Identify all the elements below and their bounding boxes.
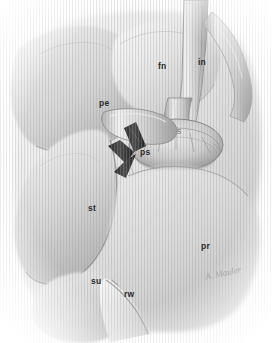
label-fn: fn bbox=[158, 62, 166, 71]
label-ps: ps bbox=[140, 148, 150, 157]
illustration-canvas bbox=[0, 0, 272, 343]
illustration-artwork bbox=[0, 0, 272, 343]
label-s: s bbox=[177, 127, 181, 136]
label-in: in bbox=[198, 58, 206, 67]
label-pr: pr bbox=[201, 242, 210, 251]
anatomical-illustration-figure: fn in pe s ps st pr su rw A. Mauler bbox=[0, 0, 272, 343]
label-st: st bbox=[88, 204, 96, 213]
page-vignette bbox=[0, 0, 272, 343]
label-su: su bbox=[91, 277, 101, 286]
label-rw: rw bbox=[124, 290, 134, 299]
label-pe: pe bbox=[99, 99, 109, 108]
